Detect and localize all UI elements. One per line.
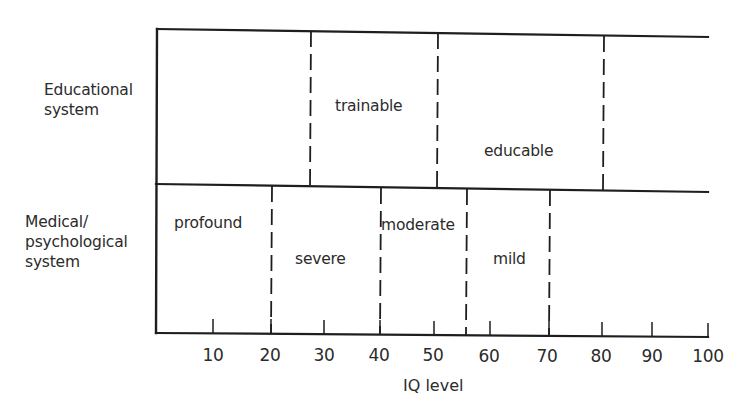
divider-profound-severe [271,186,272,334]
x-axis-line [156,333,708,337]
category-profound: profound [174,213,242,233]
tick-label-90: 90 [641,346,662,366]
tick-label-80: 80 [590,346,611,366]
x-axis-title: IQ level [403,376,463,395]
category-trainable: trainable [335,96,402,116]
row-label-medical: Medical/ psychological system [25,212,128,272]
category-severe: severe [295,249,346,269]
divider-trainable-start [310,31,311,186]
tick-label-20: 20 [259,345,280,365]
tick-label-30: 30 [313,345,334,365]
tick-label-100: 100 [692,346,724,366]
tick-label-10: 10 [202,345,223,365]
left-border [156,29,157,333]
divider-severe-moderate [380,188,381,335]
tick-label-60: 60 [478,346,499,366]
category-moderate: moderate [381,215,455,235]
divider-mild-end [549,190,550,336]
category-educable: educable [484,141,553,161]
tick-label-50: 50 [422,345,443,365]
row-label-educational: Educational system [44,80,133,120]
top-border [157,29,708,37]
frame [156,29,708,337]
tick-label-70: 70 [536,346,557,366]
divider-educable-end [603,36,604,190]
divider-moderate-mild [466,189,467,335]
category-mild: mild [493,249,526,269]
row-divider [156,184,708,192]
tick-label-40: 40 [368,345,389,365]
divider-educable-start [437,33,438,188]
